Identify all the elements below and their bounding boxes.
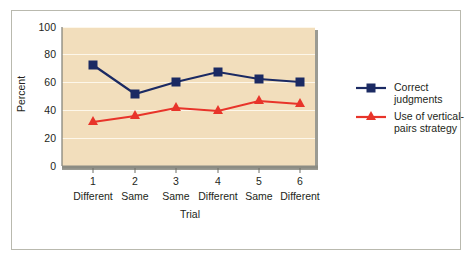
gridline-100	[62, 27, 315, 28]
xtick-num-6: 6	[280, 175, 320, 187]
gridline-40	[62, 110, 315, 111]
ytick-label-20: 20	[22, 133, 56, 144]
legend-label-vertical-pairs-strategy: Use of vertical- pairs strategy	[394, 110, 473, 134]
xtick-num-3: 3	[156, 175, 196, 187]
xtick-num-1: 1	[73, 175, 113, 187]
plot-panel-shadow-right	[315, 30, 318, 169]
xtick-cond-6: Different	[270, 190, 330, 202]
plot-panel-shadow-bottom	[62, 166, 318, 170]
xtick-num-2: 2	[115, 175, 155, 187]
legend-label-line1: Use of vertical-	[394, 110, 464, 122]
ytick-label-80: 80	[22, 49, 56, 60]
gridline-80	[62, 54, 315, 55]
plot-area	[62, 27, 315, 166]
legend-label-line1: Correct	[394, 81, 428, 93]
y-axis-label: Percent	[15, 64, 27, 124]
legend-label-line2: pairs strategy	[394, 122, 457, 134]
xtick-num-5: 5	[239, 175, 279, 187]
ytick-label-0: 0	[22, 161, 56, 172]
gridline-60	[62, 82, 315, 83]
ytick-label-40: 40	[22, 105, 56, 116]
chart-figure: 100 80 60 40 20 0 Percent 1 2 3 4 5 6 Di…	[0, 0, 473, 262]
gridline-20	[62, 138, 315, 139]
xtick-num-4: 4	[198, 175, 238, 187]
x-axis-label: Trial	[160, 208, 220, 220]
legend-label-correct-judgments: Correct judgments	[394, 81, 473, 105]
legend-label-line2: judgments	[394, 93, 442, 105]
ytick-label-60: 60	[22, 77, 56, 88]
ytick-label-100: 100	[22, 22, 56, 33]
